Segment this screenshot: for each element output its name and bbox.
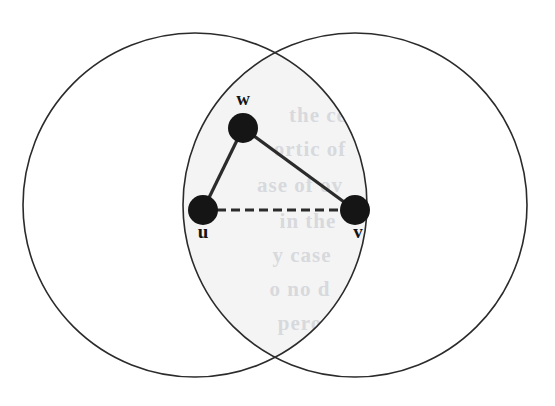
ghost-text-line: y case	[272, 243, 331, 267]
node-label-u: u	[198, 221, 209, 242]
ghost-text-line: in the	[280, 209, 337, 233]
figure-root: the ceortic ofase of ovin they caseo no …	[0, 0, 555, 406]
node-label-v: v	[353, 221, 363, 242]
ghost-text-line: o no d	[270, 277, 331, 301]
node-label-w: w	[236, 88, 250, 109]
venn-diagram-svg: the ceortic ofase of ovin they caseo no …	[0, 0, 555, 406]
graph-node-w	[228, 113, 258, 143]
